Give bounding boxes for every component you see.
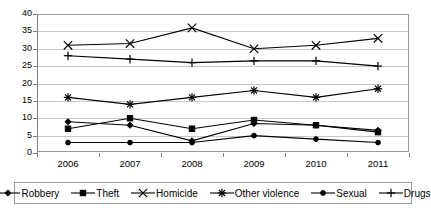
square-marker-icon [251, 117, 256, 122]
diamond-marker-icon [5, 190, 11, 196]
star-marker-icon [64, 93, 72, 101]
dot-marker-icon [310, 187, 336, 199]
plus-marker-icon [250, 57, 258, 65]
cross-marker-icon [188, 24, 196, 32]
x-axis-tick-label: 2009 [231, 158, 277, 169]
y-axis-tick [33, 118, 38, 119]
square-marker-icon [313, 123, 318, 128]
x-axis-tick-label: 2010 [293, 158, 339, 169]
legend-item-homicide[interactable]: Homicide [130, 187, 198, 199]
star-marker-icon [218, 189, 226, 197]
y-axis-tick [33, 136, 38, 137]
y-axis-tick [33, 31, 38, 32]
dot-marker-icon [252, 133, 257, 138]
plot-area: 0510152025303540 20062007200820092010201… [0, 0, 426, 176]
x-axis-tick [161, 153, 162, 157]
x-axis-tick [347, 153, 348, 157]
square-marker-icon [70, 187, 96, 199]
dot-marker-icon [66, 140, 71, 145]
legend-item-robbery[interactable]: Robbery [0, 187, 59, 199]
series-drugs [64, 52, 382, 71]
star-marker-icon [374, 85, 382, 93]
legend-label: Robbery [21, 188, 59, 199]
plus-marker-icon [374, 62, 382, 70]
series-other-violence [64, 85, 382, 109]
x-axis-tick [223, 153, 224, 157]
square-marker-icon [127, 116, 132, 121]
legend-label: Theft [96, 188, 119, 199]
series-layer [0, 0, 426, 176]
diamond-marker-icon [127, 122, 133, 128]
cross-marker-icon [130, 187, 156, 199]
square-marker-icon [65, 126, 70, 131]
x-axis-tick [37, 153, 38, 157]
series-homicide [64, 24, 382, 53]
plus-marker-icon [188, 58, 196, 66]
legend-label: Homicide [156, 188, 198, 199]
star-marker-icon [250, 86, 258, 94]
dot-marker-icon [190, 140, 195, 145]
legend-items: RobberyTheftHomicideOther violenceSexual… [0, 187, 431, 199]
y-axis-tick [33, 49, 38, 50]
diamond-marker-icon [65, 119, 71, 125]
square-marker-icon [81, 190, 86, 195]
diamond-marker-icon [0, 187, 21, 199]
y-axis-tick [33, 66, 38, 67]
star-marker-icon [126, 100, 134, 108]
plus-marker-icon [126, 55, 134, 63]
plus-marker-icon [64, 52, 72, 60]
legend-label: Drugs [404, 188, 431, 199]
x-axis-tick [285, 153, 286, 157]
square-marker-icon [375, 129, 380, 134]
legend-label: Other violence [235, 188, 299, 199]
dot-marker-icon [321, 191, 326, 196]
star-marker-icon [312, 93, 320, 101]
x-axis-tick-label: 2006 [45, 158, 91, 169]
star-marker-icon [209, 187, 235, 199]
x-axis-tick [409, 153, 410, 157]
legend-item-theft[interactable]: Theft [70, 187, 119, 199]
star-marker-icon [188, 93, 196, 101]
plus-marker-icon [312, 57, 320, 65]
x-axis-tick [99, 153, 100, 157]
plus-marker-icon [387, 189, 395, 197]
legend-item-drugs[interactable]: Drugs [378, 187, 431, 199]
x-axis-tick-label: 2011 [355, 158, 401, 169]
y-axis-tick [33, 14, 38, 15]
series-sexual [66, 133, 381, 145]
y-axis-tick [33, 101, 38, 102]
y-axis-tick [33, 84, 38, 85]
dot-marker-icon [314, 137, 319, 142]
plus-marker-icon [378, 187, 404, 199]
chart-legend: RobberyTheftHomicideOther violenceSexual… [14, 182, 412, 204]
legend-label: Sexual [336, 188, 367, 199]
square-marker-icon [189, 126, 194, 131]
dot-marker-icon [128, 140, 133, 145]
x-axis-tick-label: 2008 [169, 158, 215, 169]
x-axis-tick-label: 2007 [107, 158, 153, 169]
dot-marker-icon [376, 140, 381, 145]
legend-item-other-violence[interactable]: Other violence [209, 187, 299, 199]
legend-item-sexual[interactable]: Sexual [310, 187, 367, 199]
